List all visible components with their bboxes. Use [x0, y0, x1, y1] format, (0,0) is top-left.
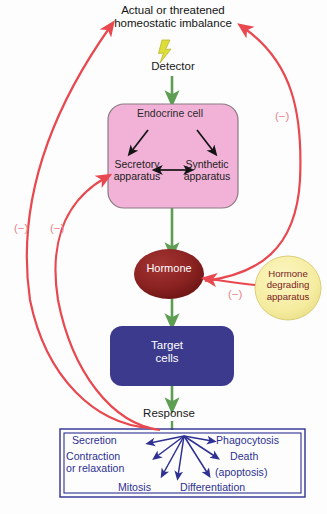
outcome-apoptosis: (apoptosis) [215, 466, 287, 478]
feedback-arrow-degrading-to-hormone [209, 279, 255, 285]
synthetic-apparatus-label: Synthetic apparatus [176, 159, 238, 183]
hormone-degrading-label: Hormone degrading apparatus [258, 268, 318, 302]
secretory-apparatus-label: Secretory apparatus [106, 159, 168, 183]
outcome-phagocytosis: Phagocytosis [216, 434, 308, 446]
negative-sign-hormone-degrade: (−) [228, 288, 242, 300]
outcome-contraction: Contraction or relaxation [66, 450, 158, 474]
outcome-death: Death [230, 450, 286, 462]
feedback-diagram: Actual or threatened homeostatic imbalan… [0, 0, 327, 514]
feedback-loop-response-to-endocrine-cell [55, 178, 160, 430]
response-outcome-arrows [150, 436, 216, 476]
outcome-mitosis: Mitosis [118, 481, 174, 493]
stimulus-label: Actual or threatened homeostatic imbalan… [88, 4, 258, 30]
negative-sign-right-upper: (−) [275, 110, 289, 122]
endocrine-cell-label: Endocrine cell [114, 108, 226, 120]
response-label: Response [131, 407, 207, 420]
hormone-label: Hormone [133, 262, 205, 274]
outcome-secretion: Secretion [72, 434, 146, 446]
target-cells-label: Target cells [132, 339, 202, 365]
negative-sign-left-inner: (−) [50, 222, 64, 234]
outcome-differentiation: Differentiation [180, 481, 268, 493]
negative-sign-left-outer: (−) [14, 222, 28, 234]
detector-label: Detector [140, 60, 206, 73]
